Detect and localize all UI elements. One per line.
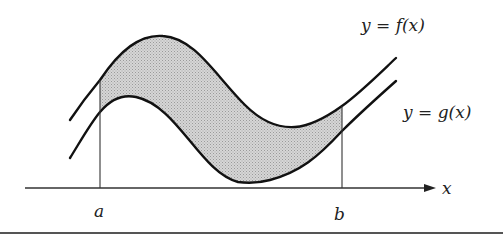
f-curve-label: y = f(x) [360, 15, 425, 35]
area-between-curves-figure: x a b y = f(x) y = g(x) [0, 0, 503, 237]
upper-bound-label: b [334, 204, 345, 224]
x-axis-arrow-icon [424, 184, 436, 192]
x-axis-label: x [442, 178, 452, 198]
lower-bound-label: a [94, 201, 104, 221]
g-curve-label: y = g(x) [402, 102, 471, 122]
shaded-area-region [100, 36, 342, 183]
